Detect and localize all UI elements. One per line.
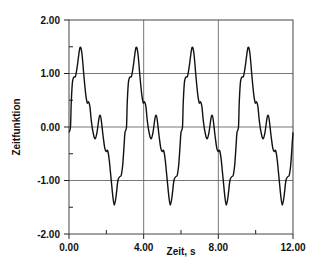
x-tick-label: 4.00 [134,242,154,253]
axes [64,20,293,239]
y-tick-label: 0.00 [41,122,61,133]
y-tick-label: -2.00 [37,229,60,240]
y-tick-label: 2.00 [41,15,61,26]
y-tick-label: 1.00 [41,68,61,79]
x-axis-title: Zeit, s [167,246,196,257]
x-tick-label: 12.00 [280,242,305,253]
data-series [69,47,293,205]
chart: 2.001.000.00-1.00-2.00 0.004.008.0012.00… [0,0,323,276]
series-line [69,47,293,205]
y-axis-tick-labels: 2.001.000.00-1.00-2.00 [37,15,60,240]
x-tick-label: 0.00 [59,242,79,253]
y-axis-title: Zeitfunktion [11,98,22,155]
y-tick-label: -1.00 [37,175,60,186]
x-tick-label: 8.00 [209,242,229,253]
